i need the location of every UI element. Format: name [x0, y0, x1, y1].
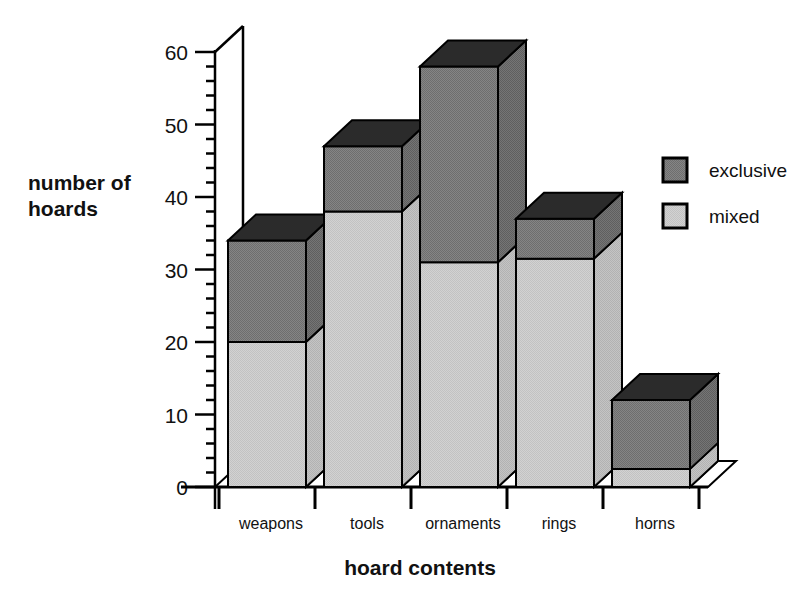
x-tick-label-tools: tools	[350, 515, 384, 532]
bar-front-exclusive	[420, 67, 498, 263]
bar-weapons	[228, 215, 334, 488]
legend-label-exclusive: exclusive	[709, 160, 787, 181]
bar-front-mixed	[516, 259, 594, 487]
x-tick-label-rings: rings	[542, 515, 577, 532]
y-tick-label: 40	[165, 186, 188, 209]
x-axis-title: hoard contents	[344, 556, 496, 579]
bar-front-exclusive	[612, 400, 690, 469]
bar-front-exclusive	[228, 241, 306, 343]
bar-front-exclusive	[516, 219, 594, 259]
y-tick-label: 10	[165, 404, 188, 427]
bar-rings	[516, 193, 622, 487]
bar-front-exclusive	[324, 146, 402, 211]
plot-area: 0102030405060weaponstoolsornamentsringsh…	[165, 26, 736, 532]
bar-ornaments	[420, 41, 526, 488]
y-tick-label: 20	[165, 331, 188, 354]
bar-horns	[612, 374, 718, 487]
chart-container: number of hoards hoard contents 01020304…	[0, 0, 800, 592]
x-tick-label-weapons: weapons	[238, 515, 303, 532]
legend-label-mixed: mixed	[709, 206, 760, 227]
x-tick-label-ornaments: ornaments	[425, 515, 501, 532]
y-tick-label: 30	[165, 259, 188, 282]
bar-front-mixed	[420, 262, 498, 487]
legend-swatch-mixed	[663, 204, 687, 228]
bar-front-mixed	[324, 212, 402, 488]
bar-front-mixed	[228, 342, 306, 487]
y-axis-title-line2: hoards	[28, 197, 98, 220]
stacked-bar-chart: number of hoards hoard contents 01020304…	[0, 0, 800, 592]
bar-tools	[324, 120, 430, 487]
y-axis-title-line1: number of	[28, 171, 132, 194]
chart-legend: exclusivemixed	[663, 158, 787, 228]
y-tick-label: 50	[165, 114, 188, 137]
legend-swatch-exclusive	[663, 158, 687, 182]
x-tick-label-horns: horns	[635, 515, 675, 532]
y-tick-label: 60	[165, 41, 188, 64]
bar-front-mixed	[612, 469, 690, 487]
